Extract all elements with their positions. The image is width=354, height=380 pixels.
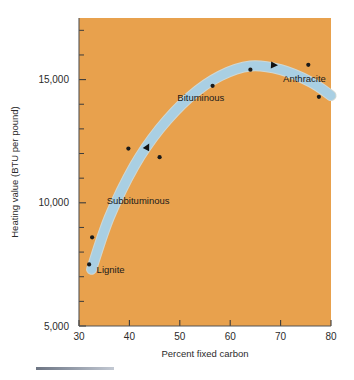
x-tick-label: 60 xyxy=(225,331,237,342)
chart-figure: LigniteSubbituminousBituminousAnthracite… xyxy=(0,0,354,380)
x-tick-label: 40 xyxy=(124,331,136,342)
bituminous-label: Bituminous xyxy=(177,92,224,103)
y-tick-label: 5,000 xyxy=(44,321,69,332)
data-point xyxy=(248,68,252,72)
y-axis-title: Heating value (BTU per pound) xyxy=(9,106,20,238)
data-point xyxy=(126,147,130,151)
data-point xyxy=(317,95,321,99)
x-tick-label: 50 xyxy=(174,331,186,342)
y-tick-label: 15,000 xyxy=(38,74,69,85)
lignite-label: Lignite xyxy=(97,264,125,275)
plot-area-background xyxy=(79,18,331,326)
data-point xyxy=(87,262,91,266)
data-point xyxy=(306,63,310,67)
x-axis-title: Percent fixed carbon xyxy=(161,348,248,359)
page-footer-rule xyxy=(36,367,114,370)
x-tick-label: 70 xyxy=(275,331,287,342)
data-point xyxy=(90,235,94,239)
x-tick-label: 80 xyxy=(325,331,337,342)
coal-rank-scatter-chart: LigniteSubbituminousBituminousAnthracite… xyxy=(0,0,354,380)
y-tick-label: 10,000 xyxy=(38,197,69,208)
anthracite-label: Anthracite xyxy=(283,73,326,84)
x-tick-label: 30 xyxy=(73,331,85,342)
subbituminous-label: Subbituminous xyxy=(107,195,170,206)
data-point xyxy=(211,84,215,88)
data-point xyxy=(158,155,162,159)
